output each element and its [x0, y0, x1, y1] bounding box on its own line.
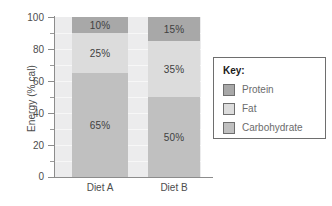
bar-diet-b[interactable]: 50% 35% 15% — [148, 17, 200, 177]
x-tick-label-diet-b: Diet B — [134, 182, 214, 193]
legend-item-carbohydrate[interactable]: Carbohydrate — [223, 120, 303, 135]
legend-label-fat: Fat — [242, 103, 256, 114]
y-tick-label-80: 80 — [4, 45, 44, 55]
bar-label-diet-a-fat: 25% — [90, 48, 111, 59]
bar-label-diet-a-protein: 10% — [90, 20, 111, 31]
legend-item-fat[interactable]: Fat — [223, 101, 256, 116]
x-tick-label-diet-a: Diet A — [60, 182, 140, 193]
bar-segment-diet-b-carbohydrate[interactable]: 50% — [148, 97, 200, 177]
legend-swatch-fat-icon — [223, 103, 235, 115]
bar-label-diet-b-protein: 15% — [164, 24, 185, 35]
bar-label-diet-a-carbohydrate: 65% — [90, 120, 111, 131]
x-axis-line — [54, 177, 213, 178]
legend: Key: Protein Fat Carbohydrate — [213, 57, 326, 139]
bar-segment-diet-b-protein[interactable]: 15% — [148, 17, 200, 41]
plot-area: 65% 25% 10% 50% 35% 15% — [55, 17, 201, 177]
bar-diet-a[interactable]: 65% 25% 10% — [72, 17, 128, 177]
legend-title: Key: — [223, 65, 245, 76]
legend-item-protein[interactable]: Protein — [223, 82, 274, 97]
bar-segment-diet-a-carbohydrate[interactable]: 65% — [72, 73, 128, 177]
bar-label-diet-b-fat: 35% — [164, 64, 185, 75]
y-tick-label-20: 20 — [4, 141, 44, 151]
bar-segment-diet-a-protein[interactable]: 10% — [72, 17, 128, 33]
legend-swatch-protein-icon — [223, 84, 235, 96]
bar-segment-diet-a-fat[interactable]: 25% — [72, 33, 128, 73]
bar-label-diet-b-carbohydrate: 50% — [164, 132, 185, 143]
bar-segment-diet-b-fat[interactable]: 35% — [148, 41, 200, 97]
legend-label-carbohydrate: Carbohydrate — [242, 122, 303, 133]
y-tick-label-60: 60 — [4, 77, 44, 87]
legend-label-protein: Protein — [242, 84, 274, 95]
stacked-bar-chart: Energy (% cal) 100 80 60 40 20 0 65% 25% — [0, 0, 332, 206]
y-tick-label-0: 0 — [4, 172, 44, 182]
legend-swatch-carbohydrate-icon — [223, 122, 235, 134]
y-axis-line — [54, 16, 55, 178]
y-tick-label-100: 100 — [4, 13, 44, 23]
y-tick-label-40: 40 — [4, 109, 44, 119]
